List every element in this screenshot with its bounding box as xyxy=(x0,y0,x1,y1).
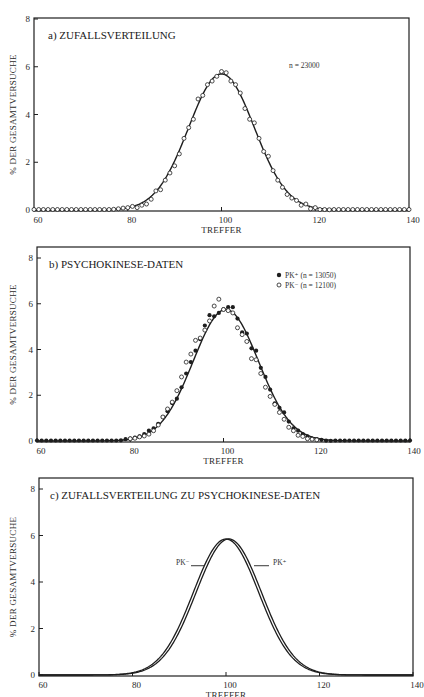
data-point-filled xyxy=(263,375,267,379)
data-point-filled xyxy=(44,438,48,442)
y-axis-title: % DER GESAMTVERSUCHE xyxy=(8,517,18,638)
data-point-open xyxy=(393,208,397,212)
data-point-filled xyxy=(403,438,407,442)
panel-a-n-annotation: n = 23000 xyxy=(289,61,320,70)
data-point-open xyxy=(156,423,160,427)
filled-circle-icon xyxy=(277,273,281,277)
plot-frame xyxy=(37,247,410,442)
data-point-filled xyxy=(357,438,361,442)
data-point-open xyxy=(55,208,59,212)
x-tick-label: 120 xyxy=(317,680,331,690)
data-point-open xyxy=(280,185,284,189)
data-point-open xyxy=(374,208,378,212)
data-point-open xyxy=(291,429,295,433)
data-point-open xyxy=(116,207,120,211)
data-point-open xyxy=(240,333,244,337)
y-tick-label: 4 xyxy=(29,345,34,355)
data-point-filled xyxy=(40,438,44,442)
data-point-open xyxy=(259,372,263,376)
data-point-filled xyxy=(268,387,272,391)
data-point-filled xyxy=(361,438,365,442)
plot-content: 024686080100120140TREFFER% DER GESAMTVER… xyxy=(8,14,424,697)
data-point-filled xyxy=(49,438,53,442)
data-point-filled xyxy=(338,438,342,442)
data-point-filled xyxy=(77,438,81,442)
data-point-filled xyxy=(277,406,281,410)
x-tick-label: 60 xyxy=(34,215,44,225)
data-point-open xyxy=(173,164,177,168)
data-point-open xyxy=(187,126,191,130)
y-tick-label: 0 xyxy=(26,205,31,215)
fit-curve xyxy=(34,74,409,210)
data-point-filled xyxy=(385,438,389,442)
data-point-open xyxy=(379,208,383,212)
x-tick-label: 80 xyxy=(130,446,140,456)
data-point-filled xyxy=(231,305,235,309)
data-point-open xyxy=(273,402,277,406)
data-point-open xyxy=(191,117,195,121)
data-point-open xyxy=(112,207,116,211)
data-point-filled xyxy=(82,438,86,442)
data-point-open xyxy=(252,121,256,125)
data-point-open xyxy=(168,171,172,175)
data-point-open xyxy=(194,338,198,342)
data-point-open xyxy=(121,206,125,210)
x-tick-label: 120 xyxy=(314,446,328,456)
x-tick-label: 140 xyxy=(407,446,421,456)
data-point-filled xyxy=(100,438,104,442)
data-point-open xyxy=(222,307,226,311)
data-point-open xyxy=(154,189,158,193)
data-point-open xyxy=(310,437,314,441)
data-point-open xyxy=(60,208,64,212)
panel-c-title: c) ZUFALLSVERTEILUNG ZU PSYCHOKINESE-DAT… xyxy=(50,489,320,502)
data-point-open xyxy=(360,208,364,212)
data-point-open xyxy=(198,336,202,340)
x-tick-label: 80 xyxy=(132,680,142,690)
data-point-open xyxy=(407,208,411,212)
data-point-filled xyxy=(394,438,398,442)
legend-pk-plus: PK⁺ (n = 13050) xyxy=(285,271,336,280)
y-axis-title: % DER GESAMTVERSUCHE xyxy=(8,54,18,175)
data-point-open xyxy=(257,136,261,140)
y-tick-label: 6 xyxy=(31,531,36,541)
y-tick-label: 8 xyxy=(26,14,31,24)
data-point-filled xyxy=(68,438,72,442)
data-point-open xyxy=(245,339,249,343)
data-point-open xyxy=(263,385,267,389)
panel-a-title: a) ZUFALLSVERTEILUNG xyxy=(48,29,176,42)
data-point-open xyxy=(208,319,212,323)
data-point-open xyxy=(276,178,280,182)
data-point-open xyxy=(309,207,313,211)
x-tick-label: 100 xyxy=(221,446,235,456)
x-tick-label: 140 xyxy=(406,215,420,225)
data-point-open xyxy=(147,432,151,436)
data-point-open xyxy=(135,206,139,210)
data-point-open xyxy=(384,208,388,212)
data-point-open xyxy=(301,434,305,438)
data-point-open xyxy=(346,208,350,212)
chart-figure: a) ZUFALLSVERTEILUNG n = 23000 b) PSYCHO… xyxy=(0,0,424,697)
data-point-filled xyxy=(333,438,337,442)
data-point-filled xyxy=(114,438,118,442)
data-point-open xyxy=(268,394,272,398)
data-point-open xyxy=(74,208,78,212)
data-point-open xyxy=(166,407,170,411)
x-tick-label: 60 xyxy=(37,446,47,456)
x-axis-title: TREFFER xyxy=(203,456,244,466)
data-point-open xyxy=(229,79,233,83)
x-tick-label: 140 xyxy=(410,680,424,690)
data-point-filled xyxy=(249,346,253,350)
data-point-filled xyxy=(207,313,211,317)
data-point-filled xyxy=(54,438,58,442)
x-tick-label: 100 xyxy=(219,215,233,225)
data-point-open xyxy=(313,206,317,210)
data-point-filled xyxy=(259,366,263,370)
data-point-filled xyxy=(123,437,127,441)
data-point-filled xyxy=(184,371,188,375)
data-point-open xyxy=(84,208,88,212)
panel-b-title: b) PSYCHOKINESE-DATEN xyxy=(49,258,183,271)
data-point-open xyxy=(355,208,359,212)
data-point-filled xyxy=(96,438,100,442)
data-point-open xyxy=(282,417,286,421)
data-point-open xyxy=(332,208,336,212)
